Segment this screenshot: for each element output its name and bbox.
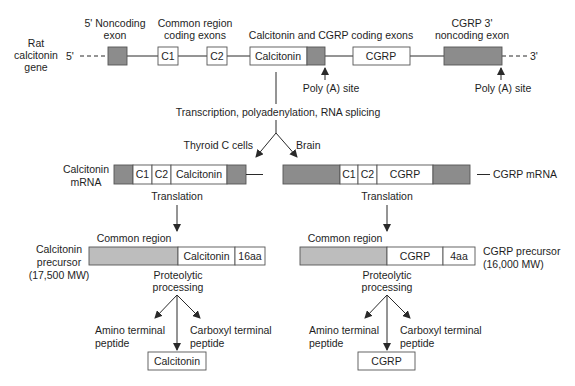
calcitonin-amino-arrow bbox=[155, 295, 177, 318]
poly-a-sites: Poly (A) site Poly (A) site bbox=[303, 68, 532, 94]
calcitonin-precursor-tail-label: 16aa bbox=[238, 250, 262, 262]
exon-cgrp-3-noncoding bbox=[444, 47, 502, 65]
calcitonin-precursor-common bbox=[89, 247, 178, 265]
cgrp-mrna-c2-label: C2 bbox=[361, 168, 375, 180]
cgrp-carboxyl-arrow bbox=[387, 295, 410, 318]
transcription-label: Transcription, polyadenylation, RNA spli… bbox=[176, 106, 381, 118]
poly-a-site-2-label: Poly (A) site bbox=[475, 82, 532, 94]
split-arrow-thyroid bbox=[256, 133, 276, 157]
gene-headers: 5' Noncoding exon Common region coding e… bbox=[85, 17, 510, 41]
calcitonin-translation-label: Translation bbox=[151, 190, 203, 202]
calcitonin-translation: Translation bbox=[151, 190, 203, 231]
calcitonin-precursor-main-label: Calcitonin bbox=[183, 250, 229, 262]
cgrp-precursor-tail-label: 4aa bbox=[450, 250, 468, 262]
cgrp-mrna-main-label: CGRP bbox=[390, 168, 420, 180]
cgrp-amino-label-1: Amino terminal bbox=[309, 324, 379, 336]
calcitonin-gene-diagram: Rat calcitonin gene 5' Noncoding exon Co… bbox=[0, 0, 575, 386]
header-common-region: Common region bbox=[158, 17, 233, 29]
cgrp-translation: Translation bbox=[361, 190, 413, 231]
calcitonin-amino-label-1: Amino terminal bbox=[95, 324, 165, 336]
cgrp-mrna: C1 C2 CGRP CGRP mRNA bbox=[283, 165, 557, 184]
calcitonin-carboxyl-arrow bbox=[177, 295, 200, 318]
calcitonin-precursor-mw: (17,500 MW) bbox=[29, 269, 90, 281]
gene-track: 5' 3' C1 C2 Calcitonin CGRP bbox=[66, 47, 538, 65]
calcitonin-carboxyl-label-1: Carboxyl terminal bbox=[190, 324, 272, 336]
gene-label: Rat calcitonin gene bbox=[14, 37, 58, 73]
calcitonin-precursor-label-2: precursor bbox=[37, 256, 82, 268]
cgrp-translation-label: Translation bbox=[361, 190, 413, 202]
cgrp-mrna-label: CGRP mRNA bbox=[493, 168, 557, 180]
cgrp-proteolysis: Proteolytic processing Amino terminal pe… bbox=[309, 269, 482, 370]
header-calc-cgrp-coding: Calcitonin and CGRP coding exons bbox=[249, 29, 413, 41]
gene-label-line-2: calcitonin bbox=[14, 49, 58, 61]
calcitonin-product-label: Calcitonin bbox=[154, 355, 200, 367]
poly-a-site-1-label: Poly (A) site bbox=[303, 82, 360, 94]
header-5-noncoding-exon: exon bbox=[104, 29, 127, 41]
calcitonin-mrna-3-utr bbox=[227, 165, 246, 184]
exon-calcitonin-label: Calcitonin bbox=[255, 50, 301, 62]
header-cgrp-3: CGRP 3' bbox=[452, 17, 493, 29]
header-coding-exons: coding exons bbox=[164, 29, 226, 41]
calcitonin-mrna-5-utr bbox=[114, 165, 133, 184]
cgrp-amino-label-2: peptide bbox=[309, 337, 344, 349]
calcitonin-mrna-c2-label: C2 bbox=[155, 168, 169, 180]
cgrp-mrna-5-utr bbox=[283, 165, 340, 184]
calcitonin-precursor: Common region Calcitonin precursor (17,5… bbox=[29, 232, 265, 281]
calcitonin-precursor-label-1: Calcitonin bbox=[36, 243, 82, 255]
cgrp-carboxyl-label-1: Carboxyl terminal bbox=[400, 324, 482, 336]
calcitonin-mrna-label-1: Calcitonin bbox=[63, 163, 109, 175]
branch-brain-label: Brain bbox=[296, 139, 321, 151]
exon-c2-label: C2 bbox=[210, 50, 224, 62]
exon-calcitonin-3-noncoding bbox=[307, 47, 325, 65]
cgrp-product-label: CGRP bbox=[371, 355, 401, 367]
cgrp-proteolytic-label-1: Proteolytic bbox=[362, 269, 411, 281]
cgrp-precursor-mw: (16,000 MW) bbox=[483, 258, 544, 270]
header-5-noncoding: 5' Noncoding bbox=[85, 17, 146, 29]
calcitonin-proteolysis: Proteolytic processing Amino terminal pe… bbox=[95, 269, 272, 370]
diagram-canvas: Rat calcitonin gene 5' Noncoding exon Co… bbox=[0, 0, 575, 386]
exon-cgrp-label: CGRP bbox=[366, 50, 396, 62]
calcitonin-mrna-main-label: Calcitonin bbox=[176, 168, 222, 180]
exon-5-noncoding bbox=[108, 47, 127, 65]
branch-thyroid-label: Thyroid C cells bbox=[184, 139, 253, 151]
split-arrow-brain bbox=[276, 133, 297, 157]
gene-label-line-1: Rat bbox=[28, 37, 44, 49]
cgrp-precursor: Common region CGRP 4aa CGRP precursor (1… bbox=[300, 232, 561, 270]
header-cgrp-3-noncoding: noncoding exon bbox=[435, 29, 509, 41]
cgrp-amino-arrow bbox=[365, 295, 387, 318]
calcitonin-mrna-c1-label: C1 bbox=[136, 168, 150, 180]
calcitonin-amino-label-2: peptide bbox=[95, 337, 130, 349]
cgrp-common-region-label: Common region bbox=[308, 232, 383, 244]
exon-c1-label: C1 bbox=[161, 50, 175, 62]
three-prime-label: 3' bbox=[530, 50, 538, 62]
calcitonin-common-region-label: Common region bbox=[97, 232, 172, 244]
cgrp-precursor-common bbox=[300, 247, 387, 265]
five-prime-label: 5' bbox=[66, 50, 74, 62]
cgrp-carboxyl-label-2: peptide bbox=[400, 337, 435, 349]
cgrp-mrna-3-utr bbox=[433, 165, 470, 184]
cgrp-precursor-label-1: CGRP precursor bbox=[483, 245, 561, 257]
cgrp-mrna-c1-label: C1 bbox=[342, 168, 356, 180]
calcitonin-carboxyl-label-2: peptide bbox=[190, 337, 225, 349]
calcitonin-mrna-label-2: mRNA bbox=[71, 176, 102, 188]
calcitonin-mrna: Calcitonin mRNA C1 C2 Calcitonin bbox=[63, 163, 263, 188]
calcitonin-proteolytic-label-1: Proteolytic bbox=[153, 269, 202, 281]
cgrp-proteolytic-label-2: processing bbox=[362, 281, 413, 293]
calcitonin-proteolytic-label-2: processing bbox=[153, 281, 204, 293]
gene-label-line-3: gene bbox=[24, 61, 48, 73]
cgrp-precursor-main-label: CGRP bbox=[400, 250, 430, 262]
